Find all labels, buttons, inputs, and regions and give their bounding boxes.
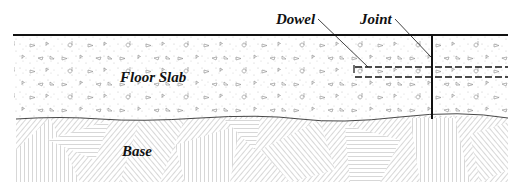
pavement-joint-diagram: Dowel Joint Floor Slab Base: [0, 0, 520, 192]
floor-slab-label: Floor Slab: [119, 69, 187, 85]
base-label: Base: [121, 143, 152, 159]
dowel-label: Dowel: [275, 11, 316, 27]
joint-label: Joint: [359, 11, 393, 27]
floor-slab-layer: [14, 36, 508, 119]
base-layer: [16, 116, 508, 182]
